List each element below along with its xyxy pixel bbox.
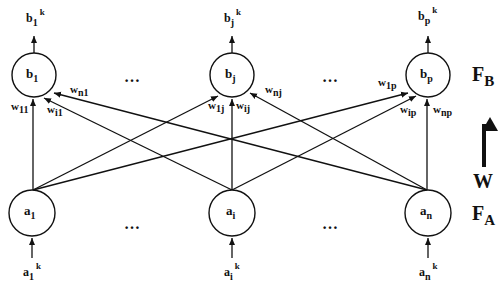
output-label-bpk: bpk <box>418 5 437 26</box>
bam-network-diagram: b1 bj bp a1 ai an b1k bjk bpk a1k aik an… <box>0 0 504 286</box>
layer-label-fa: FA <box>472 202 495 228</box>
weight-matrix-label: W <box>473 170 493 192</box>
weight-label-w1p: w1p <box>378 76 397 91</box>
weight-label-wn1: wn1 <box>70 83 89 98</box>
ellipsis-bottom-right: … <box>322 215 338 232</box>
ellipsis-top-left: … <box>124 68 140 85</box>
ellipsis-top-right: … <box>322 68 338 85</box>
weight-label-wnp: wnp <box>433 103 453 118</box>
weight-label-wij: wij <box>236 99 250 114</box>
layer-label-fb: FB <box>472 63 494 89</box>
weight-connections <box>33 93 427 190</box>
input-label-a1k: a1k <box>23 261 41 282</box>
weight-label-wip: wip <box>400 103 417 118</box>
input-label-aik: aik <box>224 261 240 282</box>
output-label-bjk: bjk <box>224 7 241 28</box>
edge-ai-b1 <box>44 98 232 190</box>
weight-label-w11: w11 <box>11 100 28 115</box>
weight-label-wi1: wi1 <box>47 103 63 118</box>
output-arrows <box>34 36 428 53</box>
input-label-ank: ank <box>419 261 438 282</box>
weight-label-w1j: w1j <box>208 99 224 114</box>
input-arrows <box>32 238 428 258</box>
ellipsis-bottom-left: … <box>124 215 140 232</box>
weight-label-wnj: wnj <box>265 83 282 98</box>
output-label-b1k: b1k <box>26 7 45 28</box>
edge-ai-bp <box>232 96 416 190</box>
